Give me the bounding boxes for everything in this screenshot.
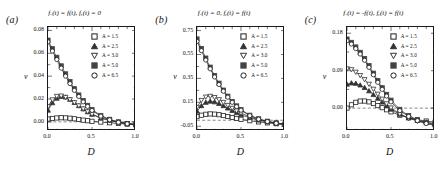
- x-tick-label: 0.0: [43, 133, 51, 139]
- data-point: [213, 112, 217, 116]
- data-point: [347, 39, 349, 43]
- legend-item: A = 3.0: [90, 51, 118, 61]
- y-tick-label: 0.00: [3, 118, 47, 124]
- legend-marker-open-square: [389, 32, 398, 41]
- data-point: [433, 120, 434, 124]
- data-point: [353, 47, 357, 51]
- legend-item: A = 3.0: [389, 51, 417, 61]
- data-point: [134, 123, 135, 127]
- data-point: [367, 65, 371, 69]
- data-point: [353, 70, 358, 74]
- y-tick-label: -0.05: [152, 122, 196, 128]
- x-tick-label: 1.0: [430, 133, 438, 139]
- y-ticks-b: -0.050.150.350.550.75: [149, 26, 196, 130]
- legend-item: A = 5.0: [90, 61, 118, 71]
- legend-item: A = 1.5: [389, 32, 417, 42]
- panel-title-a: fₓ(t) = f(t), fᵧ(t) = 0: [0, 9, 149, 17]
- data-point: [366, 89, 371, 93]
- data-point: [222, 113, 226, 117]
- data-point: [230, 100, 234, 104]
- legend-label: A = 5.0: [102, 63, 118, 68]
- data-point: [90, 108, 94, 112]
- x-ticks-b: 0.00.51.0: [196, 133, 284, 143]
- data-point: [362, 99, 366, 103]
- legend-label: A = 3.0: [401, 53, 417, 58]
- legend-item: A = 6.5: [389, 70, 417, 80]
- data-point: [204, 58, 208, 62]
- data-point: [208, 112, 212, 116]
- legend-c: A = 1.5A = 2.5A = 3.0A = 5.0A = 6.5: [389, 32, 417, 80]
- y-tick-label: 0.06: [3, 49, 47, 55]
- y-tick-label: 0.75: [152, 27, 196, 33]
- data-point: [221, 100, 226, 104]
- panel-a: (a) fₓ(t) = f(t), fᵧ(t) = 0 v 0.000.020.…: [0, 0, 149, 172]
- legend-label: A = 5.0: [251, 63, 267, 68]
- data-point: [208, 99, 213, 103]
- legend-marker-open-circle: [389, 71, 398, 80]
- data-point: [406, 114, 410, 118]
- data-point: [283, 122, 284, 126]
- legend-marker-filled-square: [90, 61, 99, 70]
- data-point: [257, 117, 261, 121]
- y-tick-label: 0.00: [302, 104, 346, 110]
- data-point: [283, 122, 284, 126]
- x-tick-label: 1.0: [281, 133, 289, 139]
- data-point: [358, 99, 362, 103]
- legend-label: A = 1.5: [251, 34, 267, 39]
- data-point: [116, 120, 120, 124]
- x-tick-label: 0.5: [237, 133, 245, 139]
- data-point: [248, 114, 252, 118]
- x-axis-label-c: D: [346, 146, 434, 157]
- legend-item: A = 1.5: [90, 32, 118, 42]
- data-point: [424, 121, 428, 125]
- legend-marker-open-triangle-down: [90, 51, 99, 60]
- data-point: [125, 122, 129, 126]
- legend-item: A = 2.5: [90, 42, 118, 52]
- data-point: [77, 94, 81, 98]
- data-point: [375, 80, 379, 84]
- data-point: [200, 113, 204, 117]
- data-point: [208, 67, 212, 71]
- legend-marker-filled-square: [389, 61, 398, 70]
- legend-item: A = 6.5: [90, 70, 118, 80]
- data-point: [81, 100, 85, 104]
- legend-label: A = 2.5: [401, 44, 417, 49]
- y-tick-label: 0.02: [3, 95, 47, 101]
- data-point: [371, 101, 375, 105]
- legend-marker-filled-triangle-up: [90, 42, 99, 51]
- data-point: [204, 112, 208, 116]
- data-point: [235, 105, 239, 109]
- x-tick-label: 0.0: [342, 133, 350, 139]
- data-point: [59, 116, 63, 120]
- legend-item: A = 5.0: [389, 61, 417, 71]
- legend-marker-filled-triangle-up: [239, 42, 248, 51]
- data-point: [48, 117, 50, 121]
- data-point: [68, 81, 72, 85]
- data-point: [349, 103, 353, 107]
- legend-label: A = 6.5: [102, 73, 118, 78]
- panel-title-b: fₓ(t) = 0, fᵧ(t) = f(t): [149, 9, 298, 17]
- data-point: [217, 82, 221, 86]
- data-point: [50, 116, 54, 120]
- data-point: [266, 119, 270, 123]
- y-tick-label: 0.55: [152, 50, 196, 56]
- x-tick-label: 0.5: [87, 133, 95, 139]
- data-point: [64, 116, 68, 120]
- data-point: [349, 42, 353, 46]
- x-tick-label: 0.0: [193, 133, 201, 139]
- legend-a: A = 1.5A = 2.5A = 3.0A = 5.0A = 6.5: [90, 32, 118, 80]
- data-point: [371, 73, 375, 77]
- legend-label: A = 6.5: [251, 73, 267, 78]
- data-point: [108, 118, 112, 122]
- legend-marker-open-square: [90, 32, 99, 41]
- data-point: [72, 117, 76, 121]
- y-tick-label: 0.08: [3, 26, 47, 32]
- legend-label: A = 6.5: [401, 73, 417, 78]
- legend-marker-open-triangle-down: [389, 51, 398, 60]
- data-point: [217, 113, 221, 117]
- data-point: [397, 109, 401, 113]
- y-tick-label: 0.35: [152, 74, 196, 80]
- data-point: [55, 57, 59, 61]
- panel-c: (c) fₓ(t) = -f(t), fᵧ(t) = f(t) v 0.000.…: [299, 0, 448, 172]
- legend-item: A = 1.5: [239, 32, 267, 42]
